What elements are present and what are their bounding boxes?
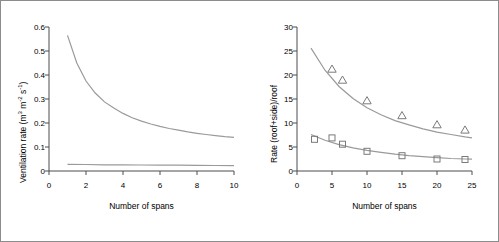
left-upper-curve xyxy=(68,35,235,137)
right-y-tick-marks xyxy=(293,27,297,171)
left-lower-curve xyxy=(68,164,235,165)
right-triangle-markers xyxy=(328,65,469,133)
right-upper-fit-curve xyxy=(311,48,472,138)
right-x-tick-marks xyxy=(297,171,472,175)
right-chart-panel: Rate (roof+side)/roof 30 25 20 15 10 5 0… xyxy=(251,1,498,241)
left-chart-panel: Ventilation rate (m3 m-2 s-1) 0.6 0.5 0.… xyxy=(1,1,251,241)
left-chart-plot xyxy=(1,1,251,241)
left-y-tick-marks xyxy=(45,27,49,171)
right-chart-plot xyxy=(251,1,498,241)
left-x-tick-marks xyxy=(49,171,234,175)
figure-container: Ventilation rate (m3 m-2 s-1) 0.6 0.5 0.… xyxy=(0,0,499,242)
